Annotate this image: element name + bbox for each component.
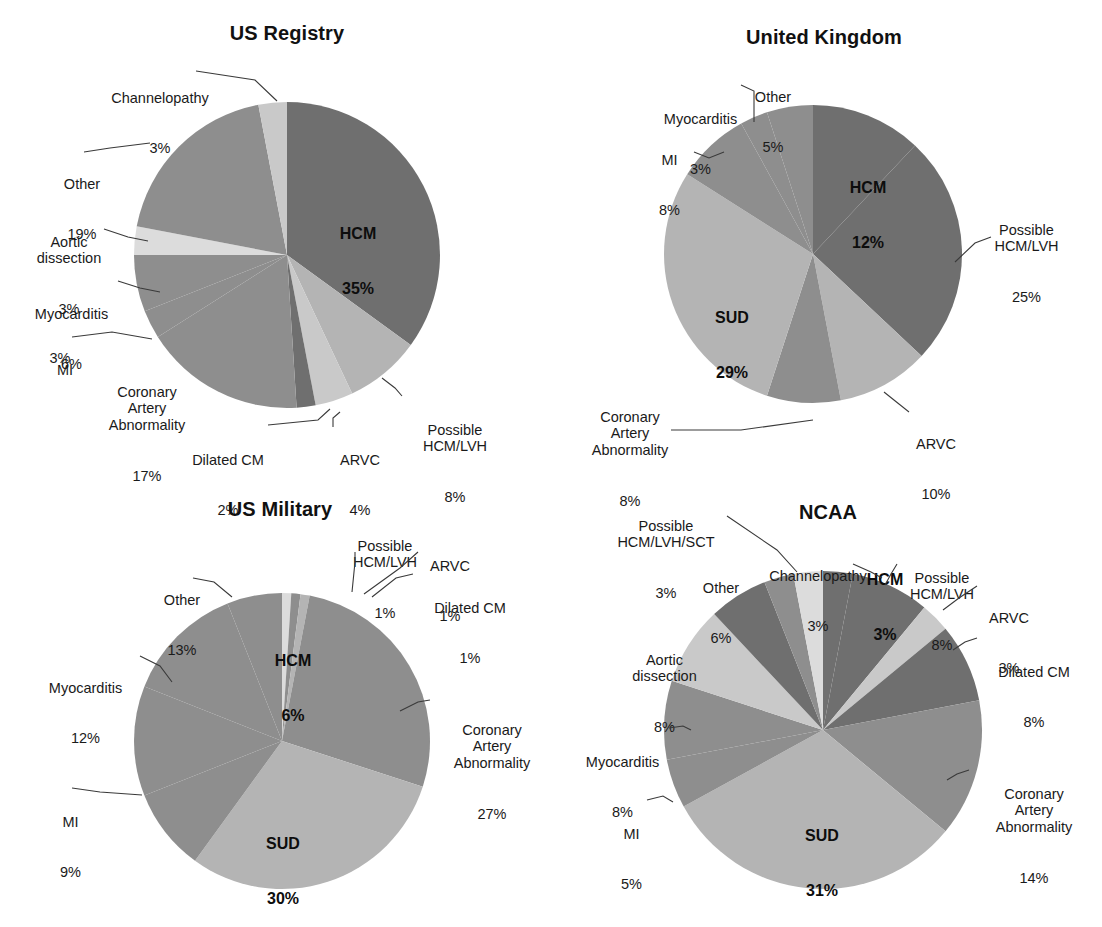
label-mil-myocarditis-pct: 12% xyxy=(28,730,143,747)
slice-label-ncaa-hcm: HCM 3% xyxy=(855,534,915,681)
label-mil-mi-pct: 9% xyxy=(48,864,93,881)
slice-label-hcm-name: HCM xyxy=(323,225,393,243)
label-mil-dilated-pct: 1% xyxy=(415,650,525,667)
label-ncaa-dilated-name: Dilated CM xyxy=(979,664,1089,681)
slice-label-ncaa-sud-name: SUD xyxy=(787,827,857,845)
label-ncaa-aortic-name: Aortic dissection xyxy=(607,652,722,686)
slice-label-ncaa-sud: SUD 31% xyxy=(787,790,857,927)
label-uk-arvc-name: ARVC xyxy=(906,436,966,453)
label-ncaa-myocarditis-name: Myocarditis xyxy=(565,754,680,771)
panel-us-military: US Military Possible HCM/LVH 1% ARVC 1% … xyxy=(0,470,551,927)
label-ncaa-arvc-name: ARVC xyxy=(979,610,1039,627)
slice-label-ncaa-sud-pct: 31% xyxy=(787,882,857,900)
label-possible-name: Possible HCM/LVH xyxy=(400,422,510,456)
slice-label-ncaa-hcm-name: HCM xyxy=(855,571,915,589)
panel-ncaa: NCAA Possible HCM/LVH/SCT 3% Other 6% Ch… xyxy=(551,470,1102,927)
label-arvc-name: ARVC xyxy=(330,452,390,469)
label-ncaa-coronary: Coronary Artery Abnormality 14% xyxy=(971,752,1097,920)
slice-label-mil-sud-pct: 30% xyxy=(248,890,318,908)
label-mi-pct: 3% xyxy=(40,350,80,367)
chart-title-us-registry: US Registry xyxy=(187,22,387,45)
label-mil-dilated: Dilated CM 1% xyxy=(415,566,525,701)
label-ncaa-mi-name: MI xyxy=(609,826,654,843)
label-mil-myocarditis: Myocarditis 12% xyxy=(28,646,143,781)
label-mil-dilated-name: Dilated CM xyxy=(415,600,525,617)
slice-label-uk-hcm-pct: 12% xyxy=(833,234,903,252)
label-myocarditis-name: Myocarditis xyxy=(14,306,129,323)
label-uk-mi-pct: 8% xyxy=(647,202,692,219)
label-aortic-dissection-name: Aortic dissection xyxy=(14,234,124,268)
label-ncaa-mi-pct: 5% xyxy=(609,876,654,893)
label-ncaa-coronary-name: Coronary Artery Abnormality xyxy=(971,786,1097,836)
label-uk-possible-pct: 25% xyxy=(969,289,1084,306)
label-mil-mi-name: MI xyxy=(48,814,93,831)
slice-label-uk-sud-name: SUD xyxy=(697,309,767,327)
label-mil-coronary-pct: 27% xyxy=(432,806,552,823)
slice-label-uk-sud: SUD 29% xyxy=(697,272,767,419)
label-dilated-cm-name: Dilated CM xyxy=(178,452,278,469)
label-mil-mi: MI 9% xyxy=(48,780,93,915)
chart-title-united-kingdom: United Kingdom xyxy=(699,26,949,49)
label-uk-coronary-name: Coronary Artery Abnormality xyxy=(565,409,695,459)
slice-label-hcm: HCM 35% xyxy=(323,188,393,335)
slice-label-uk-hcm: HCM 12% xyxy=(833,142,903,289)
slice-label-uk-hcm-name: HCM xyxy=(833,179,903,197)
label-ncaa-mi: MI 5% xyxy=(609,792,654,927)
label-mil-coronary: Coronary Artery Abnormality 27% xyxy=(432,688,552,856)
label-channelopathy-name: Channelopathy xyxy=(85,90,235,107)
label-ncaa-dilated: Dilated CM 8% xyxy=(979,630,1089,765)
label-ncaa-dilated-pct: 8% xyxy=(979,714,1089,731)
slice-label-mil-sud-name: SUD xyxy=(248,835,318,853)
slice-label-ncaa-hcm-pct: 3% xyxy=(855,626,915,644)
slice-label-mil-hcm-pct: 6% xyxy=(258,707,328,725)
slice-label-uk-sud-pct: 29% xyxy=(697,364,767,382)
label-ncaa-other-name: Other xyxy=(681,580,761,597)
panel-united-kingdom: United Kingdom Other 5% Myocarditis 3% M… xyxy=(551,0,1102,470)
label-ncaa-coronary-pct: 14% xyxy=(971,870,1097,887)
label-mil-other: Other 13% xyxy=(142,558,222,693)
slice-label-hcm-pct: 35% xyxy=(323,280,393,298)
label-uk-mi: MI 8% xyxy=(647,118,692,253)
panel-us-registry: US Registry Channelopathy 3% Other 19% A… xyxy=(0,0,551,470)
label-mil-myocarditis-name: Myocarditis xyxy=(28,680,143,697)
label-uk-possible-name: Possible HCM/LVH xyxy=(969,222,1084,256)
label-uk-mi-name: MI xyxy=(647,152,692,169)
label-uk-possible: Possible HCM/LVH 25% xyxy=(969,188,1084,339)
label-other-name: Other xyxy=(42,176,122,193)
label-mil-other-pct: 13% xyxy=(142,642,222,659)
slice-label-mil-hcm-name: HCM xyxy=(258,652,328,670)
label-mil-other-name: Other xyxy=(142,592,222,609)
chart-title-ncaa: NCAA xyxy=(758,501,898,524)
label-mi: MI xyxy=(45,328,85,412)
label-mil-coronary-name: Coronary Artery Abnormality xyxy=(432,722,552,772)
slice-label-mil-hcm: HCM 6% xyxy=(258,615,328,762)
slice-label-mil-sud: SUD 30% xyxy=(248,798,318,927)
